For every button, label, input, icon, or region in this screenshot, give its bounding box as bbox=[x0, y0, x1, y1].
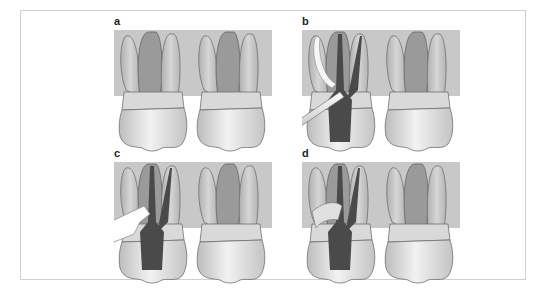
panel-c: c bbox=[114, 148, 284, 276]
molars-illustration-a bbox=[114, 30, 274, 156]
molars-illustration-b bbox=[302, 30, 462, 156]
panel-label-a: a bbox=[114, 16, 120, 27]
panel-label-c: c bbox=[114, 148, 120, 159]
molars-illustration-d bbox=[302, 162, 462, 288]
molars-illustration-c bbox=[114, 162, 274, 288]
panel-label-b: b bbox=[302, 16, 309, 27]
panel-label-d: d bbox=[302, 148, 309, 159]
panel-b: b bbox=[302, 16, 472, 144]
panel-d: d bbox=[302, 148, 472, 276]
panel-a: a bbox=[114, 16, 284, 144]
